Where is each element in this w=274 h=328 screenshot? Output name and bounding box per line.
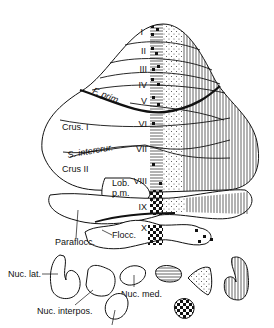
lobule-label-viii: VIII bbox=[133, 176, 147, 186]
lobule-label-x: X bbox=[141, 223, 147, 233]
nuclei: Nuc. lat. Nuc. interpos. Nuc. med. bbox=[8, 255, 249, 325]
nucleus-horizontal-pattern bbox=[156, 266, 182, 283]
nucleus-interpositus bbox=[86, 265, 115, 296]
nuc-interpos-label: Nuc. interpos. bbox=[37, 306, 93, 316]
crus-2-label: Crus II bbox=[62, 164, 89, 174]
zone-checkered-x bbox=[148, 225, 163, 245]
lobule-label-ii: II bbox=[141, 46, 146, 56]
lobule-label-iv: IV bbox=[138, 80, 147, 90]
nucleus-dotted-pattern bbox=[188, 267, 212, 295]
zone-vertical-lines bbox=[183, 20, 263, 200]
paraflocculus-label: Paraflocc. bbox=[55, 237, 95, 247]
nucleus-outline-lower bbox=[105, 294, 128, 320]
nuc-lat-label: Nuc. lat. bbox=[8, 269, 41, 279]
nucleus-lateralis bbox=[50, 255, 80, 299]
lobule-label-vii: VII bbox=[136, 144, 147, 154]
nucleus-medialis bbox=[120, 266, 146, 285]
lobule-label-v: V bbox=[141, 96, 147, 106]
lobule-label-iii: III bbox=[139, 64, 147, 74]
lob-pm-label-1: Lob. bbox=[112, 178, 130, 188]
cerebellum-diagram: I II III IV V VI VII VIII IX X F. prim. … bbox=[0, 0, 274, 328]
nucleus-vertical-pattern bbox=[224, 257, 248, 300]
lobule-label-i: I bbox=[140, 27, 143, 37]
lobule-label-ix: IX bbox=[138, 202, 147, 212]
zone-checkered-ix bbox=[150, 190, 163, 215]
nucleus-checkered-pattern bbox=[174, 299, 194, 319]
flocculus-label: Flocc. bbox=[112, 230, 136, 240]
lobule-label-vi: VI bbox=[138, 119, 147, 129]
lob-pm-label-2: p.m. bbox=[112, 188, 130, 198]
crus-1-label: Crus. I bbox=[62, 122, 89, 132]
